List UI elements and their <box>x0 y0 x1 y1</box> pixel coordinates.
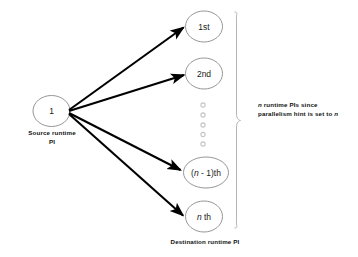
brace-annotation-caption: n runtime PIs since parallelism hint is … <box>258 100 354 118</box>
brace-line1-rest: runtime PIs since <box>262 101 318 108</box>
destination-runtime-caption: Destination runtime PI <box>150 237 260 246</box>
ellipsis-dot <box>201 113 205 117</box>
diagram-canvas: 1 1st 2nd (n - 1)th n th Source runtime … <box>0 0 358 257</box>
brace-caption-line-1: n runtime PIs since <box>258 100 354 109</box>
brace-caption-line-2: parallelism hint is set to n <box>258 109 354 118</box>
arrow-to-1st <box>69 28 184 111</box>
source-caption-line-2: PI <box>18 137 86 146</box>
brace-line2-text: parallelism hint is set to <box>258 110 334 117</box>
source-node-label: 1 <box>49 106 54 116</box>
brace-line2-italic-n: n <box>334 110 338 117</box>
grouping-brace <box>235 12 241 228</box>
arrow-to-nth <box>69 114 183 216</box>
source-caption-line-1: Source runtime <box>18 128 86 137</box>
ellipsis-dot <box>201 103 205 107</box>
node-nth-label: n th <box>197 212 211 222</box>
arrow-to-2nd <box>69 75 184 111</box>
node-n-minus-1th-label: (n - 1)th <box>191 168 221 178</box>
node-2nd-label: 2nd <box>197 69 211 79</box>
ellipsis-dot <box>201 132 205 136</box>
node-1st-label: 1st <box>198 22 210 32</box>
ellipsis-dot <box>201 123 205 127</box>
ellipsis-dot <box>201 142 205 146</box>
source-node-caption: Source runtime PI <box>18 128 86 146</box>
